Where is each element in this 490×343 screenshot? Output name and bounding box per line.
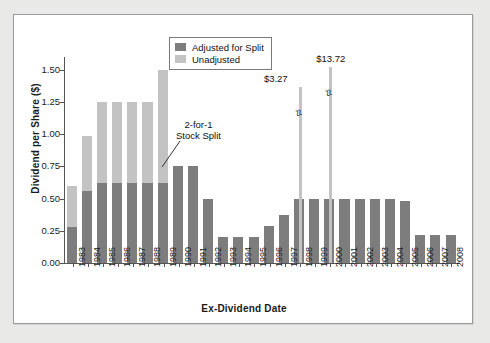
y-tick-mark <box>60 263 64 264</box>
bar-gap <box>77 57 80 263</box>
chart-frame: Dividend per Share ($) 0.000.250.500.751… <box>13 14 473 324</box>
bar-1985 <box>97 57 109 263</box>
x-tick-label-2006: 2006 <box>425 247 435 267</box>
x-tick-label-1999: 1999 <box>319 247 329 267</box>
bar-1991 <box>188 57 200 263</box>
bar-2002 <box>355 57 367 263</box>
x-tick-mark <box>285 263 286 267</box>
x-tick-label-1992: 1992 <box>213 247 223 267</box>
x-tick-label-1993: 1993 <box>228 247 238 267</box>
x-tick-label-2000: 2000 <box>334 247 344 267</box>
chart-plot-area: Dividend per Share ($) 0.000.250.500.751… <box>14 15 474 325</box>
x-tick-label-1986: 1986 <box>122 247 132 267</box>
bar-gap <box>107 57 110 263</box>
x-tick-mark <box>179 263 180 267</box>
spike-value-label: $13.72 <box>316 53 345 64</box>
x-tick-label-2005: 2005 <box>410 247 420 267</box>
x-tick-mark <box>315 263 316 267</box>
bar-1989 <box>158 57 170 263</box>
x-tick-label-1994: 1994 <box>243 247 253 267</box>
y-axis-ticks: 0.000.250.500.751.001.251.50 <box>14 15 60 325</box>
bar-1993 <box>218 57 230 263</box>
bar-1990 <box>173 57 185 263</box>
bars-container <box>65 57 459 263</box>
chart-legend: Adjusted for Split Unadjusted <box>169 37 272 70</box>
x-tick-label-2004: 2004 <box>395 247 405 267</box>
legend-item-adjusted: Adjusted for Split <box>175 41 264 53</box>
x-tick-mark <box>224 263 225 267</box>
y-tick-mark <box>60 166 64 167</box>
stock-split-annotation: 2-for-1 Stock Split <box>176 119 221 141</box>
x-tick-mark <box>194 263 195 267</box>
legend-swatch-unadjusted <box>175 55 186 63</box>
bar-gap <box>243 57 246 263</box>
x-tick-mark <box>164 263 165 267</box>
bar-1997 <box>279 57 291 263</box>
x-tick-mark <box>345 263 346 267</box>
y-tick-mark <box>60 70 64 71</box>
bar-1994 <box>233 57 245 263</box>
x-tick-mark <box>436 263 437 267</box>
y-tick-mark <box>60 102 64 103</box>
bar-2007 <box>430 57 442 263</box>
y-tick-label: 1.25 <box>16 96 60 107</box>
legend-label-unadjusted: Unadjusted <box>192 54 240 65</box>
x-tick-label-1991: 1991 <box>198 247 208 267</box>
x-tick-label-1988: 1988 <box>152 247 162 267</box>
bar-gap <box>198 57 201 263</box>
x-tick-mark <box>300 263 301 267</box>
bar-gap <box>380 57 383 263</box>
y-tick-label: 0.75 <box>16 160 60 171</box>
bar-1984 <box>82 57 94 263</box>
legend-label-adjusted: Adjusted for Split <box>192 42 264 53</box>
x-tick-label-1984: 1984 <box>92 247 102 267</box>
bar-1983 <box>67 57 79 263</box>
x-tick-mark <box>133 263 134 267</box>
bar-gap <box>365 57 368 263</box>
x-tick-label-1998: 1998 <box>304 247 314 267</box>
x-tick-label-1987: 1987 <box>137 247 147 267</box>
bar-gap <box>319 57 322 263</box>
bar-gap <box>410 57 413 263</box>
bar-2003 <box>370 57 382 263</box>
x-tick-label-1983: 1983 <box>77 247 87 267</box>
x-tick-mark <box>73 263 74 267</box>
y-tick-label: 1.50 <box>16 64 60 75</box>
bar-1987 <box>127 57 139 263</box>
x-tick-mark <box>254 263 255 267</box>
bar-gap <box>289 57 292 263</box>
bar-1988 <box>142 57 154 263</box>
y-tick-mark <box>60 199 64 200</box>
x-tick-mark <box>330 263 331 267</box>
x-tick-mark <box>148 263 149 267</box>
y-tick-label: 0.25 <box>16 225 60 236</box>
y-tick-label: 0.50 <box>16 193 60 204</box>
bar-gap <box>153 57 156 263</box>
bar-gap <box>122 57 125 263</box>
x-tick-mark <box>391 263 392 267</box>
legend-item-unadjusted: Unadjusted <box>175 53 264 65</box>
y-tick-mark <box>60 231 64 232</box>
bar-gap <box>350 57 353 263</box>
bar-gap <box>440 57 443 263</box>
bar-gap <box>228 57 231 263</box>
x-tick-mark <box>406 263 407 267</box>
x-axis-title: Ex-Dividend Date <box>14 303 474 314</box>
x-tick-mark <box>361 263 362 267</box>
x-tick-mark <box>209 263 210 267</box>
legend-swatch-adjusted <box>175 43 186 51</box>
bar-2001 <box>339 57 351 263</box>
bar-gap <box>395 57 398 263</box>
bar-gap <box>425 57 428 263</box>
x-tick-label-2003: 2003 <box>380 247 390 267</box>
bar-gap <box>304 57 307 263</box>
y-tick-mark <box>60 134 64 135</box>
x-tick-label-2002: 2002 <box>365 247 375 267</box>
bar-1992 <box>203 57 215 263</box>
bar-1999 <box>309 57 321 263</box>
spike-value-label: $3.27 <box>264 73 288 84</box>
bar-2008 <box>446 57 458 263</box>
y-tick-label: 0.00 <box>16 257 60 268</box>
x-tick-label-1995: 1995 <box>258 247 268 267</box>
x-tick-label-1996: 1996 <box>274 247 284 267</box>
